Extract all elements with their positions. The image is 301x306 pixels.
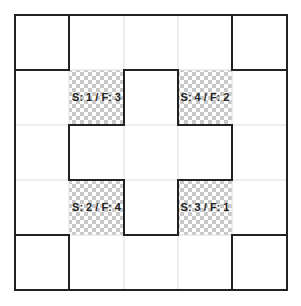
grid-diagram: S: 1 / F: 3 S: 4 / F: 2 S: 2 / F: 4 S: 3…: [0, 0, 301, 306]
corner-square-top-left: [15, 15, 69, 70]
outer-border: [15, 15, 287, 290]
corner-square-top-right: [232, 15, 287, 70]
grid-lines: [15, 15, 287, 290]
corner-square-bottom-left: [15, 235, 69, 290]
cell-label-2: S: 4 / F: 2: [181, 91, 230, 103]
corner-square-bottom-right: [232, 235, 287, 290]
cell-label-4: S: 3 / F: 1: [181, 201, 230, 213]
cell-label-1: S: 1 / F: 3: [72, 91, 121, 103]
cell-label-3: S: 2 / F: 4: [72, 201, 122, 213]
